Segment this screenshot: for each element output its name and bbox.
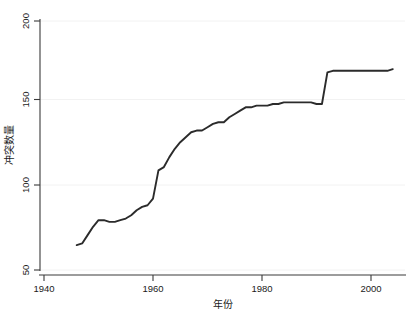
- y-tick-label-50: 50: [20, 265, 31, 276]
- y-axis-ticks: [34, 21, 40, 270]
- x-axis-title: 年份: [213, 298, 233, 310]
- y-tick-label-150: 150: [20, 92, 31, 108]
- x-tick-label-1980: 1980: [251, 283, 272, 294]
- gridlines: [40, 21, 405, 270]
- x-axis-tick-labels: 1940 1960 1980 2000: [33, 283, 381, 294]
- y-tick-label-200: 200: [20, 13, 31, 29]
- y-tick-label-100: 100: [20, 177, 31, 193]
- line-chart-svg: 200 150 100 50 冲突数量 1940 1960 1980 2000 …: [0, 0, 414, 313]
- series-line-conflict-count: [77, 69, 393, 245]
- x-tick-label-2000: 2000: [360, 283, 381, 294]
- x-axis-ticks: [44, 275, 371, 281]
- y-axis-title: 冲突数量: [3, 125, 15, 165]
- y-axis-tick-labels: 200 150 100 50: [20, 13, 31, 275]
- x-tick-label-1940: 1940: [33, 283, 54, 294]
- x-tick-label-1960: 1960: [142, 283, 163, 294]
- chart-figure: 200 150 100 50 冲突数量 1940 1960 1980 2000 …: [0, 0, 414, 313]
